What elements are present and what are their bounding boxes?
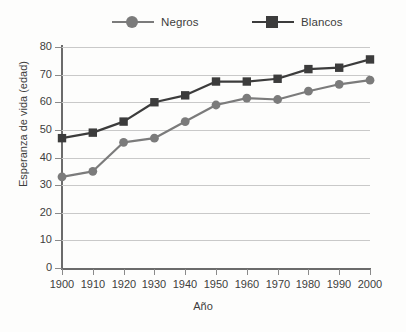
- legend-marker-square-icon: [266, 16, 278, 28]
- legend-swatch-blancos: [252, 15, 294, 29]
- life-expectancy-chart: Negros Blancos 01020304050607080 1900191…: [0, 0, 406, 332]
- series-layer: [62, 47, 370, 268]
- y-axis-tick-label: 10: [12, 233, 52, 245]
- legend-label-negros: Negros: [161, 16, 199, 28]
- legend-swatch-negros: [112, 15, 154, 29]
- y-axis-tick: [55, 268, 62, 269]
- y-axis-tick: [55, 47, 62, 48]
- y-axis-tick: [55, 102, 62, 103]
- y-axis-tick: [55, 213, 62, 214]
- data-point-blancos-1940: [181, 91, 189, 99]
- chart-legend: Negros Blancos: [0, 12, 406, 36]
- y-axis-tick: [55, 75, 62, 76]
- series-line-blancos: [62, 59, 370, 138]
- legend-item-negros[interactable]: Negros: [112, 12, 199, 32]
- x-axis-tick: [247, 269, 248, 275]
- legend-marker-circle-icon: [126, 16, 138, 28]
- data-point-blancos-1990: [335, 64, 343, 72]
- y-axis-tick: [55, 158, 62, 159]
- x-axis-tick: [370, 269, 371, 275]
- data-point-blancos-1930: [150, 98, 158, 106]
- x-axis-tick: [339, 269, 340, 275]
- y-axis-tick-label: 0: [12, 261, 52, 273]
- x-axis-title: Año: [0, 300, 406, 312]
- data-point-negros-1940: [181, 117, 190, 126]
- x-axis-tick: [308, 269, 309, 275]
- y-axis-tick: [55, 185, 62, 186]
- data-point-negros-1920: [119, 138, 128, 147]
- data-point-blancos-1920: [119, 117, 127, 125]
- data-point-negros-1930: [150, 134, 159, 143]
- data-point-blancos-1900: [58, 134, 66, 142]
- legend-item-blancos[interactable]: Blancos: [252, 12, 343, 32]
- data-point-negros-1950: [212, 101, 221, 110]
- data-point-negros-1980: [304, 87, 313, 96]
- x-axis-tick: [154, 269, 155, 275]
- data-point-negros-2000: [366, 76, 375, 85]
- y-axis-tick: [55, 130, 62, 131]
- plot-area: [62, 47, 370, 268]
- data-point-blancos-1950: [212, 77, 220, 85]
- data-point-negros-1990: [335, 80, 344, 89]
- x-axis-tick: [185, 269, 186, 275]
- data-point-blancos-1960: [243, 77, 251, 85]
- x-axis-tick: [62, 269, 63, 275]
- y-axis-title: Esperanza de vida (edad): [17, 24, 29, 224]
- data-point-negros-1910: [88, 167, 97, 176]
- series-line-negros: [62, 80, 370, 177]
- x-axis-tick: [124, 269, 125, 275]
- data-point-blancos-1970: [273, 75, 281, 83]
- data-point-blancos-2000: [366, 55, 374, 63]
- x-axis-tick: [278, 269, 279, 275]
- data-point-blancos-1980: [304, 65, 312, 73]
- y-axis-tick: [55, 240, 62, 241]
- x-axis-tick: [216, 269, 217, 275]
- data-point-negros-1970: [273, 95, 282, 104]
- x-axis-tick-label: 2000: [350, 278, 390, 290]
- data-point-blancos-1910: [89, 128, 97, 136]
- data-point-negros-1900: [58, 172, 67, 181]
- x-axis-tick: [93, 269, 94, 275]
- legend-label-blancos: Blancos: [301, 16, 343, 28]
- data-point-negros-1960: [242, 94, 251, 103]
